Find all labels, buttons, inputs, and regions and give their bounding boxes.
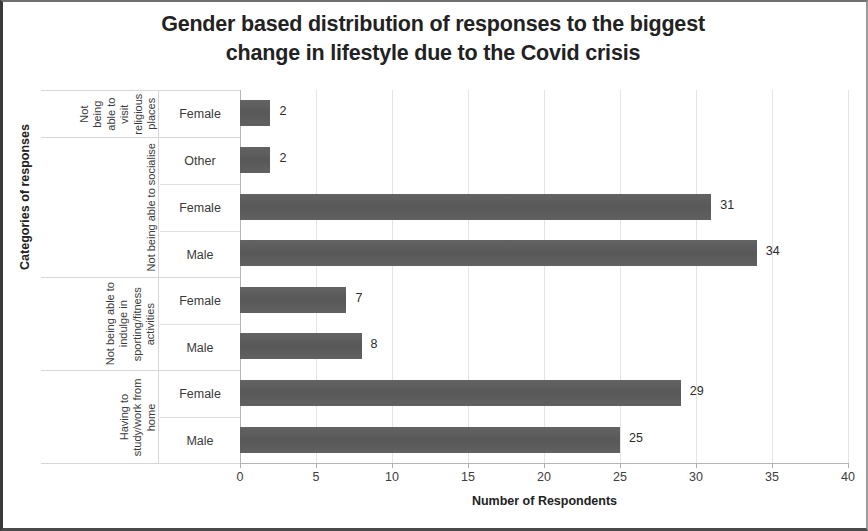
chart-title: Gender based distribution of responses t… — [63, 10, 803, 67]
x-tick-label: 20 — [524, 470, 564, 484]
x-tick-mark — [316, 463, 317, 468]
category-group: Not being able to visit religious places… — [41, 90, 240, 137]
x-tick-label: 40 — [828, 470, 868, 484]
gender-label: Other — [160, 138, 240, 185]
category-group-label-text: Not being able to socialise — [143, 143, 158, 271]
gender-label: Female — [160, 91, 240, 138]
category-group-inner: Not being able to visit religious places… — [41, 91, 240, 137]
x-tick-mark — [696, 463, 697, 468]
gender-column: FemaleMale — [160, 371, 240, 463]
y-axis-title: Categories of responses — [18, 97, 32, 297]
category-axis-labels: Not being able to visit religious places… — [41, 90, 240, 463]
chart-figure: Gender based distribution of responses t… — [0, 0, 868, 531]
x-tick-mark — [620, 463, 621, 468]
x-tick-mark — [468, 463, 469, 468]
x-tick-mark — [544, 463, 545, 468]
x-tick-label: 10 — [372, 470, 412, 484]
category-axis-bottom-rule — [41, 463, 240, 464]
bar — [240, 427, 620, 453]
x-tick-label: 35 — [752, 470, 792, 484]
category-group: Not being able to socialiseOtherFemaleMa… — [41, 137, 240, 277]
bar — [240, 240, 757, 266]
bar — [240, 380, 681, 406]
x-tick-label: 25 — [600, 470, 640, 484]
bar-value-label: 7 — [355, 291, 362, 305]
chart-title-line-2: change in lifestyle due to the Covid cri… — [63, 39, 803, 68]
x-tick-mark — [240, 463, 241, 468]
chart-title-line-1: Gender based distribution of responses t… — [63, 10, 803, 39]
category-group-label: Not being able to visit religious places — [41, 91, 159, 137]
bar-value-label: 31 — [720, 198, 734, 212]
category-group-label: Having to study/work from home — [41, 371, 159, 463]
bar-value-label: 2 — [279, 151, 286, 165]
x-tick-label: 15 — [448, 470, 488, 484]
gender-column: FemaleMale — [160, 278, 240, 370]
gender-label: Female — [160, 371, 240, 418]
x-tick-label: 0 — [220, 470, 260, 484]
category-group-inner: Having to study/work from homeFemaleMale — [41, 371, 240, 463]
bar — [240, 333, 362, 359]
x-tick-mark — [392, 463, 393, 468]
gender-label: Male — [160, 324, 240, 371]
gender-label: Male — [160, 231, 240, 278]
plot-area: 223134782925 — [240, 90, 848, 463]
gridline — [848, 90, 849, 463]
category-group-label: Not being able to indulge in sporting/fi… — [41, 278, 159, 370]
gender-column: OtherFemaleMale — [160, 138, 240, 277]
bar — [240, 100, 270, 126]
bar-value-label: 34 — [766, 244, 780, 258]
gender-label: Male — [160, 417, 240, 464]
category-group-label-text: Having to study/work from home — [116, 371, 158, 463]
x-axis-title: Number of Respondents — [240, 494, 849, 508]
bar-value-label: 25 — [629, 431, 643, 445]
bar — [240, 194, 711, 220]
x-tick-label: 5 — [296, 470, 336, 484]
x-tick-mark — [772, 463, 773, 468]
category-group-inner: Not being able to socialiseOtherFemaleMa… — [41, 138, 240, 277]
category-group: Not being able to indulge in sporting/fi… — [41, 277, 240, 370]
bar — [240, 147, 270, 173]
gender-label: Female — [160, 278, 240, 325]
gender-label: Female — [160, 184, 240, 231]
x-tick-label: 30 — [676, 470, 716, 484]
bar — [240, 287, 346, 313]
gender-column: Female — [160, 91, 240, 137]
bar-value-label: 8 — [371, 337, 378, 351]
category-group-inner: Not being able to indulge in sporting/fi… — [41, 278, 240, 370]
category-group-label: Not being able to socialise — [41, 138, 159, 277]
category-group-label-text: Not being able to indulge in sporting/fi… — [102, 278, 158, 370]
category-group-label-text: Not being able to visit religious places — [76, 91, 158, 137]
category-group: Having to study/work from homeFemaleMale — [41, 370, 240, 463]
x-tick-mark — [848, 463, 849, 468]
bar-value-label: 29 — [690, 384, 704, 398]
bar-value-label: 2 — [279, 104, 286, 118]
